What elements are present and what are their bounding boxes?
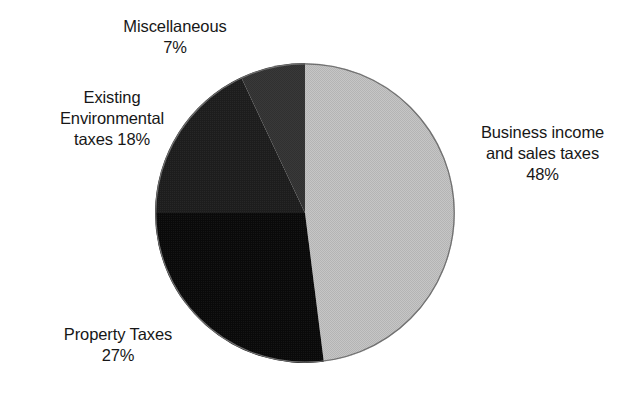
pie-chart-figure: Miscellaneous 7% Existing Environmental … <box>0 0 630 398</box>
pie-label-existing-line3: taxes 18% <box>12 129 212 150</box>
pie-label-existing-line1: Existing <box>12 87 212 108</box>
pie-label-business-line1: Business income <box>455 122 630 143</box>
pie-label-miscellaneous-percent: 7% <box>0 37 350 58</box>
pie-label-property-taxes: Property Taxes 27% <box>18 324 218 366</box>
pie-label-business-income-and-sales-taxes: Business income and sales taxes 48% <box>455 122 630 185</box>
pie-label-existing-environmental-taxes: Existing Environmental taxes 18% <box>12 87 212 150</box>
pie-label-property-name: Property Taxes <box>18 324 218 345</box>
pie-slice-business-income-and-sales-taxes <box>305 63 455 362</box>
pie-label-miscellaneous: Miscellaneous 7% <box>0 16 350 58</box>
pie-label-business-percent: 48% <box>455 164 630 185</box>
pie-label-business-line2: and sales taxes <box>455 143 630 164</box>
pie-label-existing-line2: Environmental <box>12 108 212 129</box>
pie-label-property-percent: 27% <box>18 345 218 366</box>
pie-label-miscellaneous-name: Miscellaneous <box>0 16 350 37</box>
